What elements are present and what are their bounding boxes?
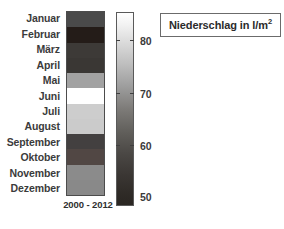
heatmap-cell-mai bbox=[67, 73, 104, 88]
colorbar-tick-label-50: 50 bbox=[140, 192, 152, 203]
heatmap-cell-juni bbox=[67, 88, 104, 103]
colorbar-tick-70-left bbox=[116, 93, 120, 94]
month-label-column: Januar Februar März April Mai Juni Juli … bbox=[0, 11, 63, 196]
chart-title-box: Niederschlag in l/m2 bbox=[160, 13, 281, 37]
month-label-mai: Mai bbox=[0, 73, 63, 88]
chart-title: Niederschlag in l/m2 bbox=[169, 19, 272, 31]
month-label-dezember: Dezember bbox=[0, 181, 63, 196]
chart-title-base: Niederschlag in l/m bbox=[169, 19, 268, 31]
month-label-maerz: März bbox=[0, 42, 63, 57]
colorbar-legend: 80 70 60 50 bbox=[116, 12, 134, 206]
month-label-august: August bbox=[0, 119, 63, 134]
colorbar-tick-label-70: 70 bbox=[140, 89, 152, 100]
month-label-november: November bbox=[0, 165, 63, 180]
chart-title-exponent: 2 bbox=[268, 17, 272, 26]
heatmap-cell-dezember bbox=[67, 180, 104, 195]
heatmap-cell-januar bbox=[67, 12, 104, 27]
colorbar-tick-70-right bbox=[130, 93, 134, 94]
month-label-oktober: Oktober bbox=[0, 150, 63, 165]
colorbar-tick-label-60: 60 bbox=[140, 141, 152, 152]
heatmap-cell-februar bbox=[67, 27, 104, 42]
heatmap-cell-september bbox=[67, 134, 104, 149]
colorbar-tick-label-80: 80 bbox=[140, 36, 152, 47]
heatmap-cell-maerz bbox=[67, 43, 104, 58]
period-caption: 2000 - 2012 bbox=[59, 199, 117, 210]
colorbar-tick-80-right bbox=[130, 40, 134, 41]
month-label-januar: Januar bbox=[0, 11, 63, 26]
month-label-juli: Juli bbox=[0, 104, 63, 119]
monthly-precipitation-heatmap-strip bbox=[66, 11, 105, 196]
heatmap-cell-april bbox=[67, 58, 104, 73]
colorbar-tick-60-right bbox=[130, 145, 134, 146]
colorbar-tick-80-left bbox=[116, 40, 120, 41]
month-label-juni: Juni bbox=[0, 88, 63, 103]
month-label-september: September bbox=[0, 134, 63, 149]
month-label-februar: Februar bbox=[0, 26, 63, 41]
heatmap-cell-oktober bbox=[67, 149, 104, 164]
heatmap-cell-august bbox=[67, 119, 104, 134]
heatmap-cell-november bbox=[67, 165, 104, 180]
month-label-april: April bbox=[0, 57, 63, 72]
colorbar-tick-60-left bbox=[116, 145, 120, 146]
heatmap-cell-juli bbox=[67, 104, 104, 119]
